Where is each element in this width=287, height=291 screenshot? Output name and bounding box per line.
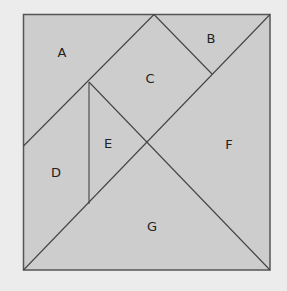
piece-label-c: C bbox=[145, 72, 154, 85]
tangram-svg bbox=[0, 0, 287, 291]
piece-label-b: B bbox=[207, 32, 216, 45]
piece-label-a: A bbox=[58, 46, 67, 59]
piece-label-d: D bbox=[51, 166, 61, 179]
piece-label-g: G bbox=[147, 220, 157, 233]
piece-label-e: E bbox=[104, 137, 112, 150]
piece-label-f: F bbox=[225, 138, 232, 151]
tangram-diagram: A B C D E F G bbox=[0, 0, 287, 291]
